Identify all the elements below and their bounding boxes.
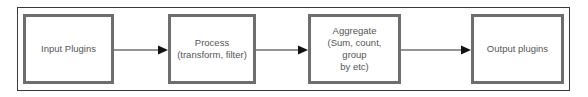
edges-layer (0, 0, 588, 97)
arrow-input-to-process (114, 46, 168, 55)
arrow-aggregate-to-output (401, 46, 471, 55)
arrow-process-to-aggregate (256, 46, 308, 55)
